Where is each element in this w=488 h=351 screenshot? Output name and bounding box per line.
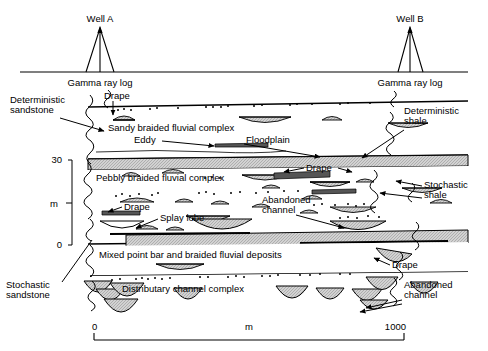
hscale-right-value: 1000	[385, 321, 406, 332]
leader-stochastic-sandstone	[62, 240, 92, 282]
anno-stochastic-sandstone-line2: sandstone	[6, 289, 50, 300]
figure-canvas: Well A Gamma ray log Well B Gamma ray lo…	[0, 0, 488, 351]
anno-abandoned-channel-mid-line2: channel	[262, 204, 295, 215]
vscale-unit-label: m	[50, 198, 58, 209]
anno-drape-bottom-right: Drape	[392, 259, 418, 270]
hscale-left-value: 0	[92, 321, 97, 332]
well-log-panel: Well A Gamma ray log Well B Gamma ray lo…	[20, 13, 468, 88]
well-a-label: Well A	[87, 13, 114, 24]
well-b-log-label: Gamma ray log	[378, 77, 443, 88]
hscale-unit-label: m	[245, 321, 253, 332]
anno-floodplain: Floodplain	[246, 134, 290, 145]
well-a-log-label: Gamma ray log	[68, 77, 133, 88]
vertical-scale: 30 m 0	[50, 154, 72, 250]
cross-section-svg: Well A Gamma ray log Well B Gamma ray lo…	[0, 0, 488, 351]
well-a-log-trace	[86, 26, 114, 72]
label-distributary-channel: Distributary channel complex	[122, 283, 244, 294]
label-mixed-point-bar: Mixed point bar and braided fluvial depo…	[99, 249, 282, 260]
label-pebbly-braided: Pebbly braided fluvial complex	[96, 172, 225, 183]
anno-splay-lobe: Splay lobe	[160, 212, 204, 223]
anno-abandoned-channel-bottom-line2: channel	[404, 289, 437, 300]
anno-deterministic-sandstone-line2: sandstone	[10, 104, 54, 115]
anno-stochastic-shale-line2: shale	[424, 189, 447, 200]
anno-drape-top: Drape	[104, 90, 130, 101]
vscale-bottom-tick: 0	[57, 239, 62, 250]
anno-drape-left: Drape	[124, 201, 150, 212]
horizontal-scale-bar: 0 m 1000	[92, 321, 406, 340]
anno-deterministic-shale-line2: shale	[404, 115, 427, 126]
anno-eddy: Eddy	[134, 134, 156, 145]
vscale-top-tick: 30	[51, 154, 62, 165]
label-sandy-braided: Sandy braided fluvial complex	[108, 122, 234, 133]
well-b-label: Well B	[396, 13, 423, 24]
anno-drape-mid-right: Drape	[306, 162, 332, 173]
well-b-log-trace	[398, 26, 423, 72]
